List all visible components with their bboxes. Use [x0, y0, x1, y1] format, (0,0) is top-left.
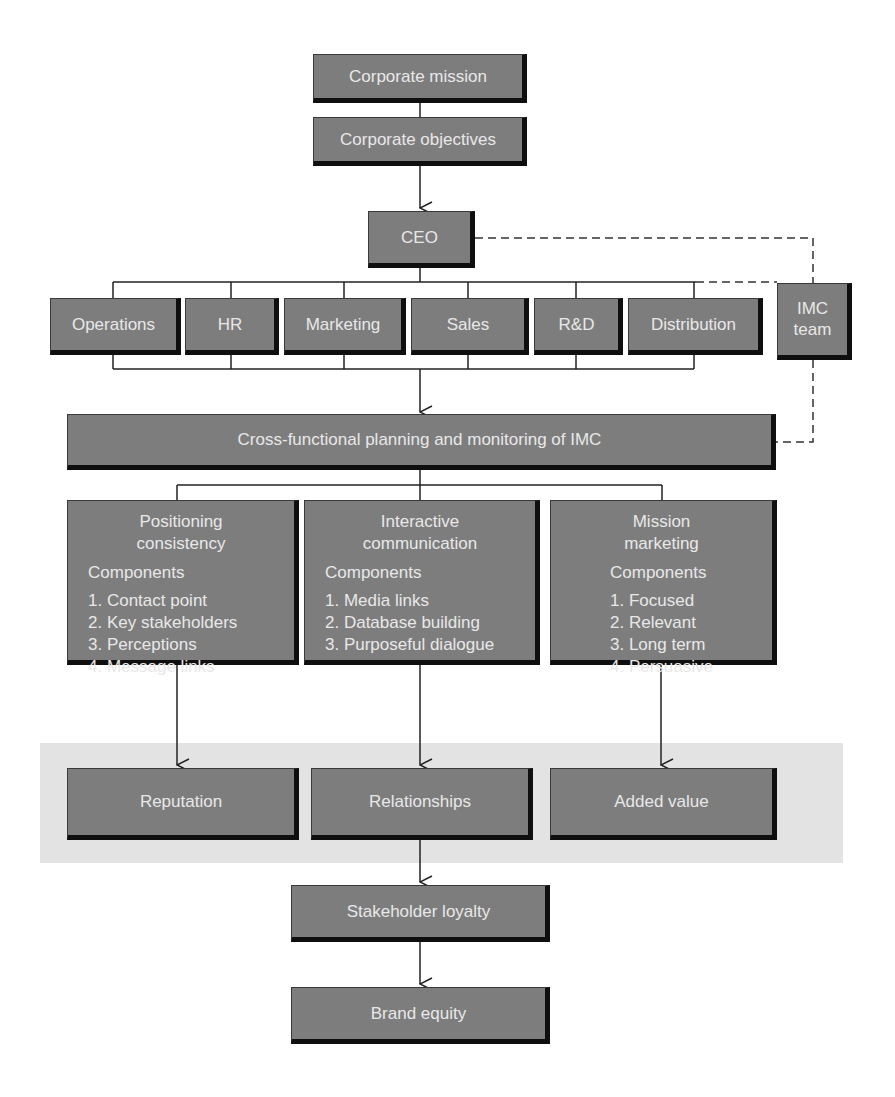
- ceo-box: CEO: [368, 211, 475, 268]
- brand-equity-label: Brand equity: [371, 1004, 466, 1024]
- dept-marketing-box: Marketing: [284, 298, 406, 355]
- pillar-title-line2: consistency: [88, 533, 274, 555]
- dept-label: Distribution: [651, 315, 736, 335]
- dept-sales-box: Sales: [411, 298, 529, 355]
- pillar-interactive-communication: Interactive communication Components 1. …: [304, 500, 540, 665]
- pillar-title-line1: Positioning: [88, 511, 274, 533]
- component-item: 2. Relevant: [610, 612, 713, 634]
- dept-hr-box: HR: [185, 298, 279, 355]
- component-item: 2. Database building: [325, 612, 480, 634]
- corporate-objectives-label: Corporate objectives: [340, 130, 496, 150]
- component-item: 4. Message links: [88, 656, 215, 678]
- dashed-imc-crossfunctional: [775, 360, 813, 442]
- outcome-label: Reputation: [140, 792, 222, 812]
- brand-equity-box: Brand equity: [291, 987, 550, 1044]
- component-item: 3. Perceptions: [88, 634, 197, 656]
- dept-distribution-box: Distribution: [628, 298, 763, 355]
- dept-operations-box: Operations: [50, 298, 181, 355]
- pillar-title-line1: Mission: [551, 511, 772, 533]
- cross-functional-label: Cross-functional planning and monitoring…: [238, 430, 602, 450]
- corporate-mission-label: Corporate mission: [349, 67, 487, 87]
- components-label: Components: [88, 563, 184, 583]
- dashed-ceo-imc: [475, 238, 813, 283]
- component-item: 4. Persuasive: [610, 656, 713, 678]
- imc-team-label-line1: IMC: [797, 299, 828, 319]
- outcome-reputation-box: Reputation: [67, 768, 299, 840]
- corporate-objectives-box: Corporate objectives: [313, 117, 527, 166]
- cross-functional-box: Cross-functional planning and monitoring…: [67, 414, 776, 470]
- components-label: Components: [610, 563, 713, 583]
- component-item: 3. Purposeful dialogue: [325, 634, 494, 656]
- dept-label: HR: [218, 315, 243, 335]
- components-label: Components: [325, 563, 421, 583]
- imc-team-box: IMC team: [777, 283, 852, 360]
- outcome-label: Added value: [614, 792, 709, 812]
- component-item: 2. Key stakeholders: [88, 612, 237, 634]
- pillar-mission-marketing: Mission marketing Components 1. Focused …: [550, 500, 777, 665]
- component-item: 1. Contact point: [88, 590, 207, 612]
- outcome-added-value-box: Added value: [550, 768, 777, 840]
- imc-organization-diagram: Corporate mission Corporate objectives C…: [0, 0, 895, 1097]
- corporate-mission-box: Corporate mission: [313, 54, 527, 103]
- dept-label: Marketing: [306, 315, 381, 335]
- component-item: 1. Media links: [325, 590, 429, 612]
- pillar-title: Positioning consistency: [88, 511, 294, 555]
- stakeholder-loyalty-label: Stakeholder loyalty: [347, 902, 491, 922]
- pillar-title: Mission marketing: [551, 511, 772, 555]
- dept-rnd-box: R&D: [534, 298, 623, 355]
- pillar-title-line1: Interactive: [325, 511, 515, 533]
- ceo-label: CEO: [401, 228, 438, 248]
- imc-team-label-line2: team: [794, 320, 832, 340]
- stakeholder-loyalty-box: Stakeholder loyalty: [291, 885, 550, 942]
- pillar-components: Components 1. Focused 2. Relevant 3. Lon…: [610, 563, 713, 678]
- pillar-positioning-consistency: Positioning consistency Components 1. Co…: [67, 500, 299, 665]
- dept-label: Operations: [72, 315, 155, 335]
- component-item: 1. Focused: [610, 590, 713, 612]
- dept-label: Sales: [447, 315, 490, 335]
- outcome-relationships-box: Relationships: [311, 768, 533, 840]
- pillar-title-line2: marketing: [551, 533, 772, 555]
- outcome-label: Relationships: [369, 792, 471, 812]
- component-item: 3. Long term: [610, 634, 713, 656]
- dept-label: R&D: [559, 315, 595, 335]
- pillar-title-line2: communication: [325, 533, 515, 555]
- pillar-title: Interactive communication: [325, 511, 535, 555]
